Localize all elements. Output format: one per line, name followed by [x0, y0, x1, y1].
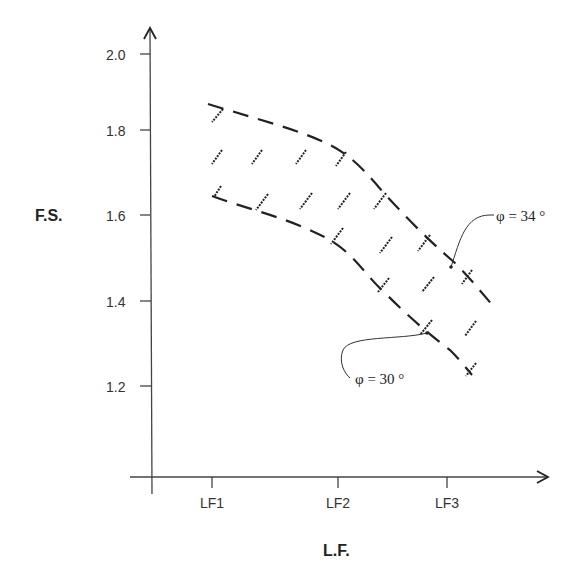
hatch-band: [212, 109, 476, 376]
y-tick-1-8: 1.8: [106, 123, 126, 139]
x-axis: [130, 471, 548, 488]
y-tick-1-4: 1.4: [106, 294, 126, 310]
x-axis-title: L.F.: [323, 542, 350, 559]
label-phi-34: φ = 34 °: [496, 208, 545, 224]
label-phi-30: φ = 30 °: [355, 371, 404, 387]
y-axis: [140, 28, 156, 494]
leader-phi-34: [451, 215, 494, 267]
y-tick-2-0: 2.0: [106, 47, 126, 63]
y-tick-1-6: 1.6: [106, 208, 126, 224]
x-tick-lf1: LF1: [200, 495, 224, 511]
curve-phi-30: [212, 196, 472, 375]
y-axis-title: F.S.: [35, 207, 63, 224]
x-tick-lf3: LF3: [435, 495, 459, 511]
chart-canvas: 2.0 1.8 1.6 1.4 1.2 F.S. LF1 LF2 LF3 L.F…: [0, 0, 584, 585]
y-tick-1-2: 1.2: [106, 379, 126, 395]
x-tick-lf2: LF2: [326, 495, 350, 511]
curve-phi-34: [208, 104, 494, 307]
